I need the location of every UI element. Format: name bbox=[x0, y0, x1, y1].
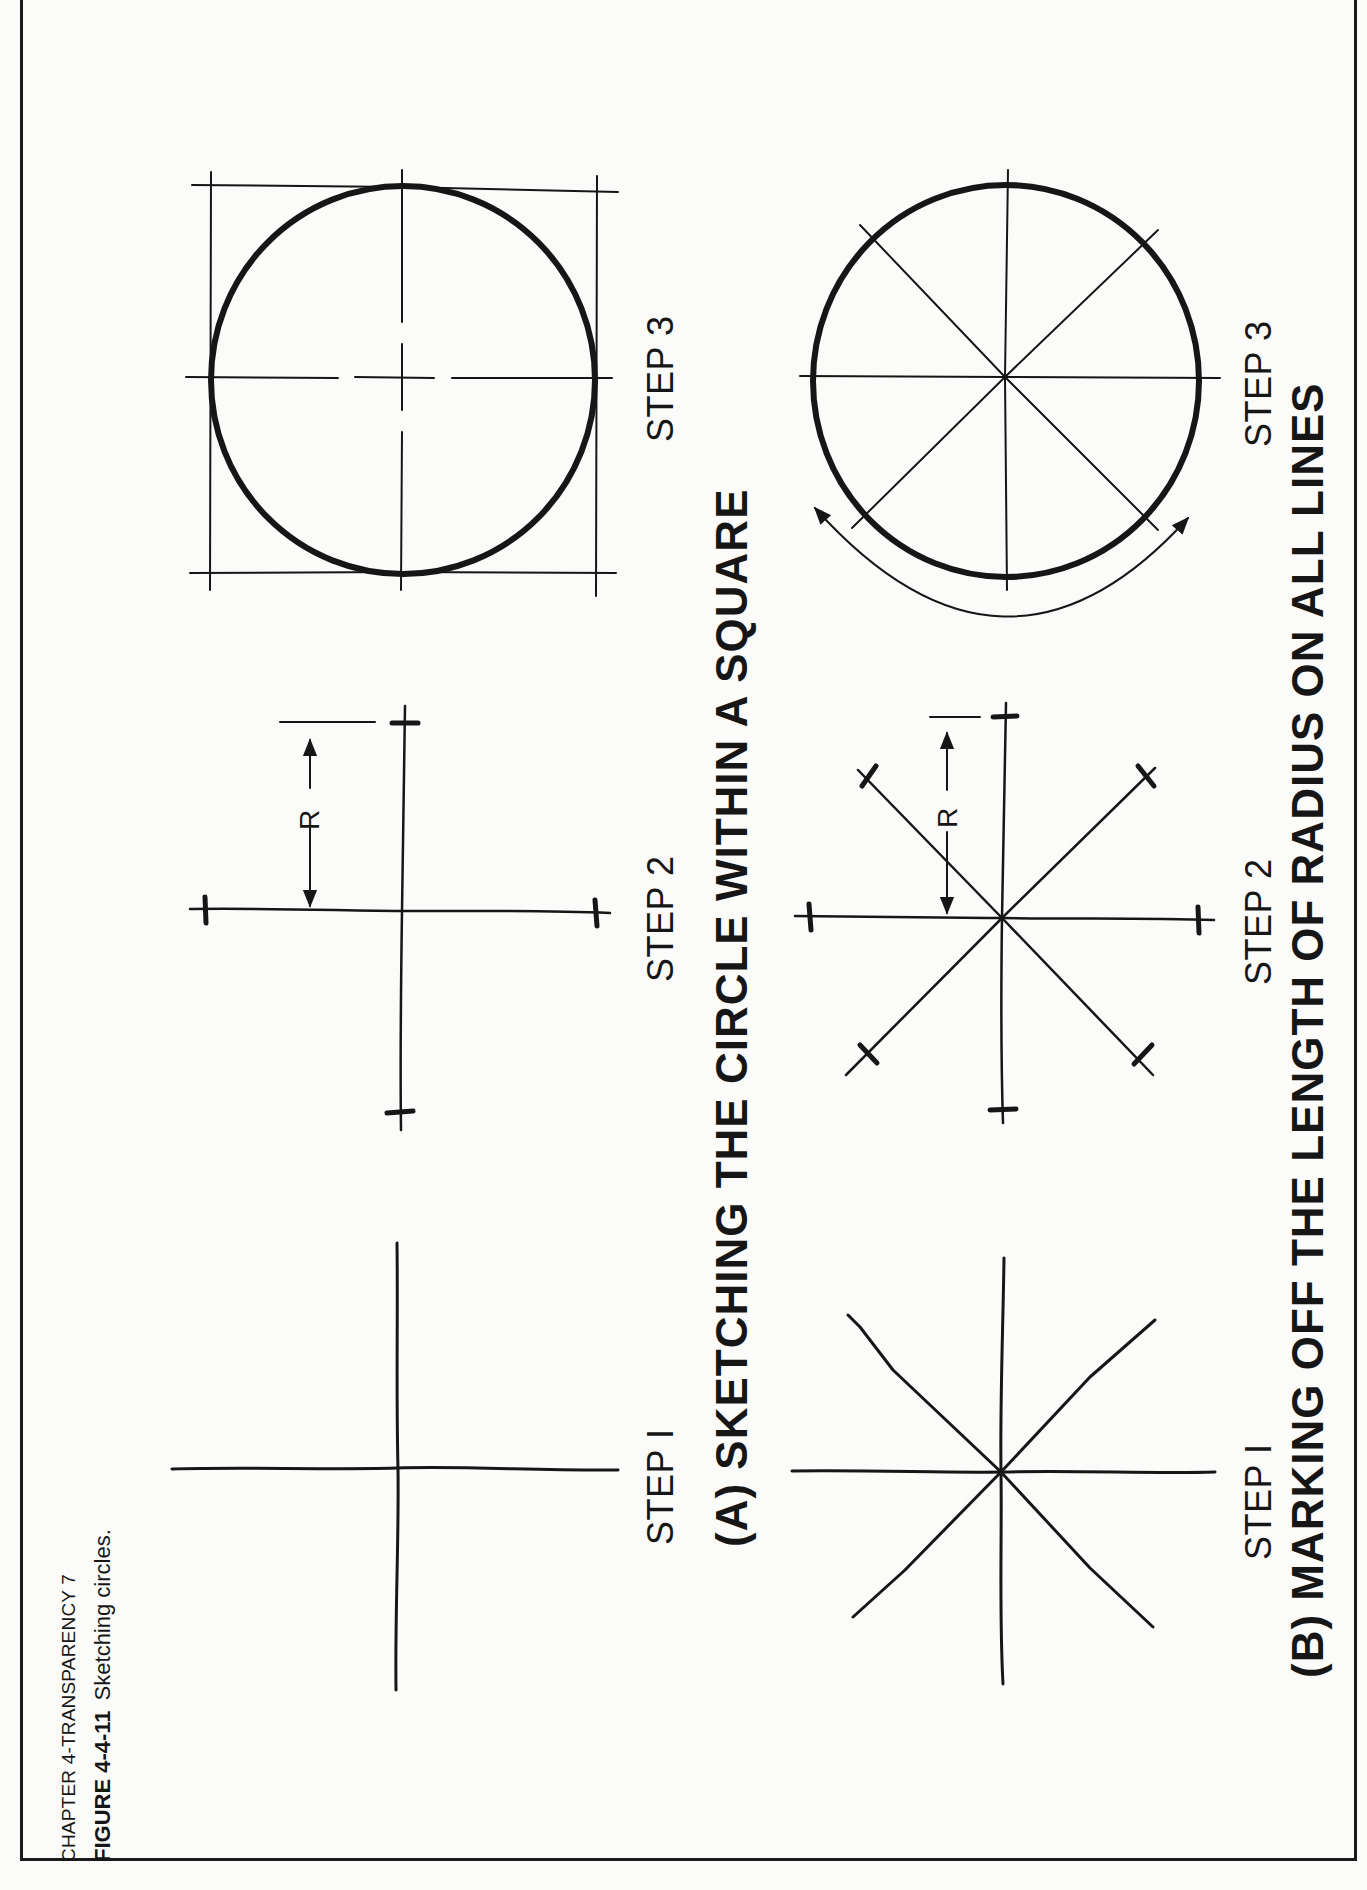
section-a-title: (A) SKETCHING THE CIRCLE WITHIN A SQUARE bbox=[707, 489, 757, 1548]
a-step2-label: STEP 2 bbox=[640, 856, 682, 982]
b-step1-label: STEP I bbox=[1238, 1444, 1280, 1560]
b-radius-label: R bbox=[932, 808, 964, 828]
sketch-diagrams bbox=[0, 0, 1367, 1890]
section-b-title: (B) MARKING OFF THE LENGTH OF RADIUS ON … bbox=[1283, 382, 1333, 1678]
b-step3-completed-circle bbox=[800, 170, 1220, 617]
b-step2-label: STEP 2 bbox=[1238, 859, 1280, 985]
figure-caption: FIGURE 4-4-11Sketching circles. bbox=[90, 1529, 116, 1862]
b-step2-radius-marks bbox=[795, 703, 1214, 1123]
figure-caption-text: Sketching circles. bbox=[90, 1529, 115, 1700]
figure-number: FIGURE 4-4-11 bbox=[90, 1710, 115, 1862]
transparency-page: CHAPTER 4-TRANSPARENCY 7 FIGURE 4-4-11Sk… bbox=[0, 0, 1367, 1890]
a-step3-circle-in-square bbox=[186, 170, 618, 596]
a-radius-label: R bbox=[294, 810, 326, 830]
a-step1-center-lines bbox=[172, 1243, 618, 1690]
b-step3-label: STEP 3 bbox=[1238, 321, 1280, 447]
b-step1-radial-lines bbox=[792, 1258, 1215, 1684]
a-step1-label: STEP I bbox=[640, 1429, 682, 1545]
chapter-label: CHAPTER 4-TRANSPARENCY 7 bbox=[58, 1574, 80, 1862]
a-step2-radius-marks bbox=[190, 706, 610, 1130]
a-step3-label: STEP 3 bbox=[640, 316, 682, 442]
